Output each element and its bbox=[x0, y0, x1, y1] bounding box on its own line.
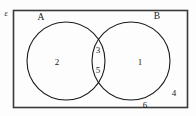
region-value-b-only: 1 bbox=[138, 58, 143, 67]
region-value-outside-bottom: 6 bbox=[143, 101, 148, 110]
region-value-outside-right: 4 bbox=[172, 89, 177, 98]
region-value-a-only: 2 bbox=[55, 58, 60, 67]
region-value-intersection-upper: 3 bbox=[96, 46, 101, 55]
set-b-label: B bbox=[154, 12, 160, 22]
set-a-circle bbox=[27, 22, 105, 100]
venn-diagram-canvas: ε A B 2 3 5 1 4 6 bbox=[0, 0, 196, 116]
region-value-intersection-lower: 5 bbox=[96, 66, 101, 75]
venn-diagram-graphic bbox=[0, 0, 196, 116]
universal-set-symbol: ε bbox=[4, 10, 7, 18]
universal-set-rectangle bbox=[14, 11, 188, 108]
set-b-circle bbox=[92, 22, 170, 100]
set-a-label: A bbox=[38, 13, 45, 23]
